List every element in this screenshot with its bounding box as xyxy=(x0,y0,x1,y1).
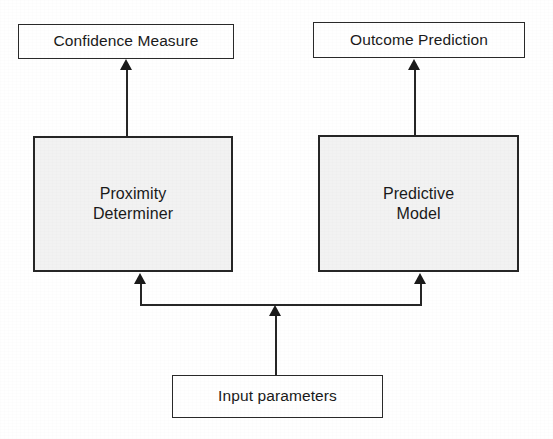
node-confidence-measure[interactable]: Confidence Measure xyxy=(18,24,234,59)
node-input-parameters[interactable]: Input parameters xyxy=(172,375,383,418)
edge-predictive-to-outcome-shaft xyxy=(414,69,416,136)
node-input-parameters-label: Input parameters xyxy=(218,387,337,406)
edge-bus-to-proximity-shaft xyxy=(140,284,142,306)
edge-proximity-to-confidence-shaft xyxy=(126,69,128,137)
edge-bus-to-predictive-arrowhead xyxy=(414,273,426,284)
edge-proximity-to-confidence-arrowhead xyxy=(120,59,132,70)
node-outcome-prediction[interactable]: Outcome Prediction xyxy=(313,22,525,58)
edge-bus-to-proximity-arrowhead xyxy=(134,273,146,284)
edge-bus-to-predictive-shaft xyxy=(420,284,422,306)
edge-input-to-bus-arrowhead xyxy=(269,305,281,316)
edge-input-to-bus-shaft xyxy=(275,316,277,376)
node-predictive-model-label: Predictive Model xyxy=(383,184,454,223)
edge-predictive-to-outcome-arrowhead xyxy=(408,59,420,70)
node-outcome-prediction-label: Outcome Prediction xyxy=(350,31,488,50)
node-predictive-model[interactable]: Predictive Model xyxy=(318,135,519,272)
block-diagram-canvas: Confidence Measure Outcome Prediction Pr… xyxy=(0,0,553,439)
node-proximity-determiner-label: Proximity Determiner xyxy=(93,184,173,223)
node-confidence-measure-label: Confidence Measure xyxy=(54,32,199,51)
node-proximity-determiner[interactable]: Proximity Determiner xyxy=(33,136,233,272)
edge-distribution-bus xyxy=(140,304,422,306)
